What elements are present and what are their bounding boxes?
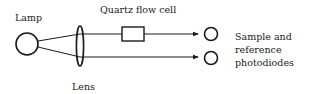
ray-lower-lamp-to-lens [38, 47, 80, 57]
photodiodes-label-line2: reference [235, 43, 294, 56]
quartz-flow-cell [122, 27, 144, 41]
sample-photodiode [205, 28, 218, 41]
photodiodes-label-line1: Sample and [235, 30, 294, 43]
reference-photodiode [205, 52, 218, 65]
flow-cell-label: Quartz flow cell [100, 4, 176, 16]
lamp-circle [16, 33, 38, 55]
photodiodes-label: Sample and reference photodiodes [235, 30, 294, 69]
lens-ellipse [76, 26, 83, 66]
optical-diagram: Lamp Quartz flow cell Lens Sample and re… [0, 0, 312, 94]
lens-label: Lens [72, 81, 95, 93]
photodiodes-label-line3: photodiodes [235, 56, 294, 69]
ray-upper-lamp-to-lens [38, 34, 80, 41]
lamp-label: Lamp [15, 12, 42, 24]
